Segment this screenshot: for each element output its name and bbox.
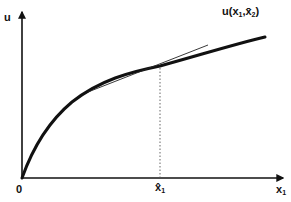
curve-label-main: u(x	[222, 5, 239, 17]
tick-label-subscript: 1	[161, 187, 165, 194]
curve-label: u(x1,x̄2)	[222, 6, 259, 18]
x-axis-label: x1	[276, 184, 286, 196]
utility-curve	[22, 37, 265, 178]
curve-label-sep: ,x̄	[242, 5, 251, 17]
tick-label-xhat1: x̂1	[155, 182, 165, 194]
tangent-line	[88, 45, 208, 92]
curve-label-close: )	[256, 5, 260, 17]
origin-label: 0	[16, 184, 22, 195]
x-axis-label-subscript: 1	[282, 189, 286, 196]
y-axis-label: u	[4, 12, 11, 23]
diagram-canvas	[0, 0, 291, 202]
